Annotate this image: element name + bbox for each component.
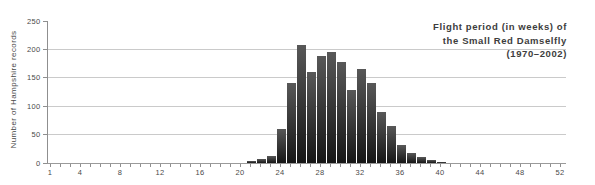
x-tick-33 [370,164,371,167]
y-tick-100 [43,106,47,107]
x-tick-7 [110,164,111,167]
x-tick-4 [80,164,81,167]
x-tick-1 [50,164,51,167]
x-tick-44 [480,164,481,167]
x-tick-6 [100,164,101,167]
bar-week-35 [387,126,396,163]
y-tick-label-250: 250 [19,17,41,26]
bar-week-36 [397,145,406,163]
x-tick-16 [200,164,201,167]
x-tick-2 [60,164,61,167]
x-tick-45 [490,164,491,167]
y-tick-label-200: 200 [19,45,41,54]
x-tick-label-40: 40 [432,168,448,177]
x-tick-11 [150,164,151,167]
x-tick-label-32: 32 [352,168,368,177]
x-tick-26 [300,164,301,167]
x-tick-9 [130,164,131,167]
x-tick-label-1: 1 [42,168,58,177]
x-tick-46 [500,164,501,167]
x-tick-5 [90,164,91,167]
flight-period-chart: Number of Hampshire records 050100150200… [0,0,595,185]
x-tick-10 [140,164,141,167]
x-tick-label-48: 48 [512,168,528,177]
chart-title-line-1: Flight period (in weeks) of [433,20,567,34]
x-tick-label-36: 36 [392,168,408,177]
x-tick-19 [230,164,231,167]
y-tick-50 [43,134,47,135]
y-axis-title: Number of Hampshire records [9,25,18,155]
bar-week-32 [357,69,366,163]
bar-week-29 [327,52,336,163]
x-tick-label-28: 28 [312,168,328,177]
x-tick-43 [470,164,471,167]
bar-week-30 [337,62,346,163]
bar-week-23 [267,156,276,163]
x-tick-20 [240,164,241,167]
x-tick-label-44: 44 [472,168,488,177]
x-tick-27 [310,164,311,167]
x-tick-29 [330,164,331,167]
chart-title-line-2: the Small Red Damselfly [433,34,567,48]
x-tick-label-12: 12 [152,168,168,177]
x-tick-label-16: 16 [192,168,208,177]
x-tick-12 [160,164,161,167]
x-tick-24 [280,164,281,167]
x-tick-38 [420,164,421,167]
y-tick-150 [43,77,47,78]
chart-title: Flight period (in weeks) of the Small Re… [433,20,567,61]
x-tick-36 [400,164,401,167]
x-tick-28 [320,164,321,167]
x-tick-14 [180,164,181,167]
x-tick-3 [70,164,71,167]
x-tick-37 [410,164,411,167]
bar-week-34 [377,112,386,163]
y-tick-label-0: 0 [19,159,41,168]
x-tick-50 [540,164,541,167]
x-tick-25 [290,164,291,167]
x-tick-32 [360,164,361,167]
x-tick-35 [390,164,391,167]
bar-week-25 [287,83,296,163]
x-tick-42 [460,164,461,167]
x-tick-8 [120,164,121,167]
x-tick-label-52: 52 [552,168,568,177]
x-tick-40 [440,164,441,167]
x-tick-13 [170,164,171,167]
y-tick-label-100: 100 [19,102,41,111]
x-tick-21 [250,164,251,167]
x-tick-label-8: 8 [112,168,128,177]
y-tick-label-50: 50 [19,130,41,139]
bar-week-39 [427,160,436,163]
bar-week-38 [417,157,426,163]
x-tick-47 [510,164,511,167]
bar-week-26 [297,45,306,163]
bar-week-33 [367,83,376,163]
x-tick-23 [270,164,271,167]
bar-week-40 [437,162,446,163]
x-tick-48 [520,164,521,167]
x-tick-41 [450,164,451,167]
x-tick-label-24: 24 [272,168,288,177]
y-tick-label-150: 150 [19,73,41,82]
x-tick-51 [550,164,551,167]
x-tick-label-20: 20 [232,168,248,177]
x-tick-49 [530,164,531,167]
bar-week-37 [407,153,416,163]
x-tick-18 [220,164,221,167]
chart-title-line-3: (1970–2002) [433,47,567,61]
x-tick-31 [350,164,351,167]
bar-week-22 [257,159,266,163]
bar-week-31 [347,90,356,163]
y-tick-200 [43,49,47,50]
x-tick-15 [190,164,191,167]
bar-week-21 [247,161,256,163]
x-tick-30 [340,164,341,167]
x-tick-39 [430,164,431,167]
bar-week-27 [307,72,316,163]
x-tick-52 [560,164,561,167]
x-tick-34 [380,164,381,167]
x-tick-label-4: 4 [72,168,88,177]
bar-week-28 [317,56,326,163]
y-tick-250 [43,21,47,22]
